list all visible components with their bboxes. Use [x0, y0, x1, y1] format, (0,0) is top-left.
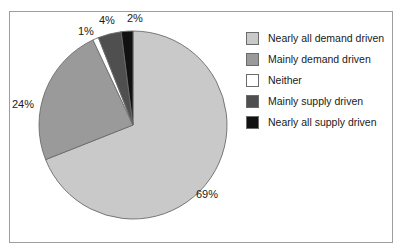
slice-label-nearly-all-demand-driven: 69% — [196, 189, 218, 200]
legend-item-label: Mainly demand driven — [268, 54, 371, 65]
legend-swatch — [246, 95, 259, 108]
legend-item[interactable]: Nearly all supply driven — [246, 112, 391, 133]
slice-label-neither: 1% — [78, 26, 94, 37]
legend-item[interactable]: Nearly all demand driven — [246, 28, 391, 49]
slice-label-nearly-all-supply-driven: 2% — [127, 13, 143, 24]
legend-item[interactable]: Mainly supply driven — [246, 91, 391, 112]
legend-item-label: Mainly supply driven — [268, 96, 363, 107]
legend-swatch — [246, 116, 259, 129]
slice-label-mainly-demand-driven: 24% — [12, 99, 34, 110]
legend-item[interactable]: Mainly demand driven — [246, 49, 391, 70]
legend-item-label: Neither — [268, 75, 302, 86]
legend-item-label: Nearly all supply driven — [268, 117, 377, 128]
legend-swatch — [246, 32, 259, 45]
slice-label-mainly-supply-driven: 4% — [99, 15, 115, 26]
legend-item-label: Nearly all demand driven — [268, 33, 384, 44]
legend-swatch — [246, 74, 259, 87]
legend-item[interactable]: Neither — [246, 70, 391, 91]
chart-legend: Nearly all demand drivenMainly demand dr… — [246, 28, 391, 133]
legend-swatch — [246, 53, 259, 66]
